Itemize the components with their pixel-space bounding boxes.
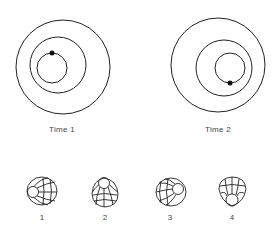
figure-3-icon bbox=[156, 178, 186, 206]
figure-2-icon bbox=[92, 178, 118, 208]
middle-circle bbox=[30, 37, 86, 93]
figure-4-icon bbox=[219, 177, 246, 206]
time-1-label: Time 1 bbox=[42, 125, 82, 134]
figure-1-icon bbox=[27, 177, 57, 205]
panel-time-2 bbox=[171, 18, 265, 112]
figure-1-number: 1 bbox=[32, 213, 52, 222]
outer-circle bbox=[171, 18, 265, 112]
middle-circle bbox=[196, 40, 252, 96]
position-dot bbox=[50, 51, 55, 56]
inner-circle bbox=[37, 53, 67, 83]
figure-3-number: 3 bbox=[160, 213, 180, 222]
diagram-canvas bbox=[0, 0, 275, 235]
panel-time-1 bbox=[16, 20, 110, 114]
figure-2-number: 2 bbox=[95, 213, 115, 222]
time-2-label: Time 2 bbox=[198, 125, 238, 134]
figure-4-number: 4 bbox=[222, 213, 242, 222]
position-dot bbox=[228, 81, 233, 86]
inner-circle bbox=[215, 53, 245, 83]
